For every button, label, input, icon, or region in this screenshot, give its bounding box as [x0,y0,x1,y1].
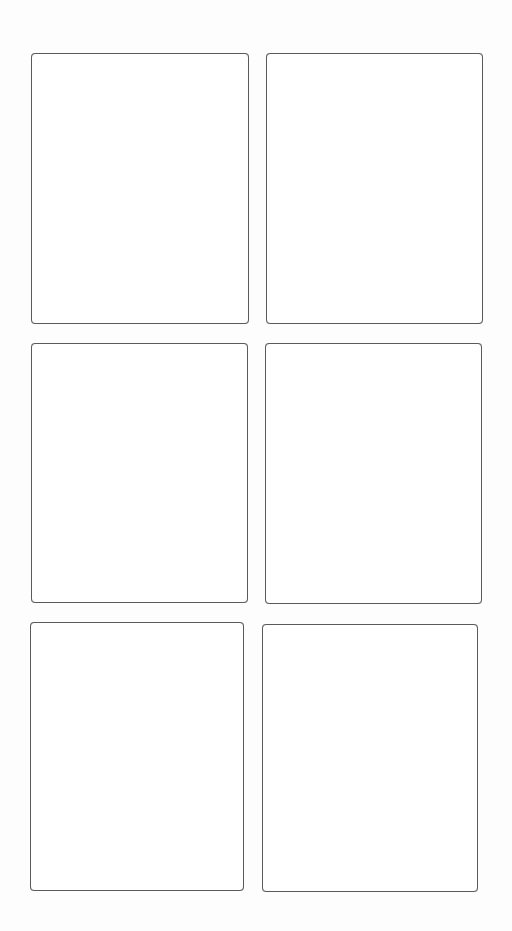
panel-1 [31,53,249,324]
panel-4 [265,343,482,604]
panel-3 [31,343,248,603]
panel-6 [262,624,478,892]
panel-2 [266,53,483,324]
panel-5 [30,622,244,891]
